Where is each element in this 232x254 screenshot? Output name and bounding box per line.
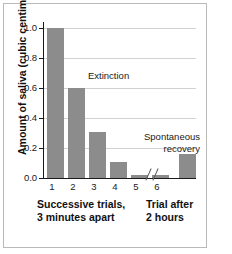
y-tick-label-0.8: 0.8	[24, 52, 37, 63]
y-tick-label-0.4: 0.4	[24, 112, 37, 123]
x-axis-line	[44, 178, 196, 179]
x-caption-left-line2: 3 minutes apart	[37, 211, 125, 224]
bar-trial-2	[68, 88, 85, 178]
x-caption-right-line1: Trial after	[146, 198, 193, 211]
y-tick-label-0.0: 0.0	[24, 172, 37, 183]
annotation-extinction: Extinction	[88, 70, 129, 81]
figure-container: Amount of saliva (cubic centimeters) 1.0…	[0, 0, 232, 254]
x-tick-label-2: 2	[66, 181, 80, 192]
x-caption-right-line2: 2 hours	[146, 211, 193, 224]
x-tick-label-1: 1	[45, 181, 59, 192]
x-tick-label-4: 4	[108, 181, 122, 192]
x-caption-trial-after: Trial after 2 hours	[146, 198, 193, 224]
x-tick-label-3: 3	[87, 181, 101, 192]
y-tick-label-0.6: 0.6	[24, 82, 37, 93]
x-caption-successive-trials: Successive trials, 3 minutes apart	[37, 198, 125, 224]
bar-trial-recovery	[179, 154, 196, 178]
y-tick-0.0	[39, 178, 44, 179]
x-tick-label-6: 6	[150, 181, 164, 192]
y-tick-label-1.0: 1.0	[24, 22, 37, 33]
annotation-recovery-line1: Spontaneous	[140, 131, 200, 143]
bar-trial-3	[89, 132, 106, 179]
bar-trial-1	[47, 28, 64, 178]
axis-break-icon	[144, 168, 166, 182]
annotation-recovery-line2: recovery	[140, 143, 200, 155]
bar-trial-4	[110, 162, 127, 179]
x-caption-left-line1: Successive trials,	[37, 198, 125, 211]
x-tick-label-5: 5	[129, 181, 143, 192]
y-tick-label-0.2: 0.2	[24, 142, 37, 153]
bars-layer	[44, 28, 196, 178]
annotation-spontaneous-recovery: Spontaneous recovery	[140, 131, 200, 155]
